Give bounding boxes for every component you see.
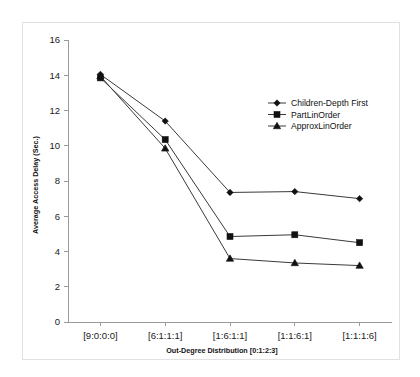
square-marker	[274, 112, 280, 118]
x-tick-label: [9:0:0:0]	[83, 330, 117, 341]
x-tick-label: [1:6:1:1]	[213, 330, 247, 341]
diamond-marker	[356, 195, 362, 201]
y-tick-label: 8	[55, 175, 60, 186]
legend-item-diamond: Children-Depth First	[268, 98, 369, 108]
legend-label: ApproxLinOrder	[291, 121, 352, 131]
legend-label: Children-Depth First	[291, 98, 369, 108]
line-chart: 0246810121416 [9:0:0:0][6:1:1:1][1:6:1:1…	[0, 0, 420, 377]
x-tick-label: [1:1:1:6]	[342, 330, 376, 341]
square-marker	[162, 137, 168, 143]
diamond-marker	[274, 100, 280, 106]
y-tick-label: 16	[49, 34, 60, 45]
y-tick-label: 10	[49, 140, 60, 151]
x-axis-tick-group: [9:0:0:0][6:1:1:1][1:6:1:1][1:1:6:1][1:1…	[83, 322, 377, 341]
legend-item-square: PartLinOrder	[268, 110, 340, 120]
y-tick-label: 0	[55, 316, 60, 327]
square-marker	[227, 234, 233, 240]
legend-label: PartLinOrder	[291, 110, 340, 120]
y-tick-label: 4	[55, 246, 60, 257]
x-tick-label: [6:1:1:1]	[148, 330, 182, 341]
diamond-marker	[292, 188, 298, 194]
y-axis-tick-group: 0246810121416	[49, 34, 68, 327]
y-tick-label: 12	[49, 105, 60, 116]
legend-item-triangle: ApproxLinOrder	[268, 121, 352, 131]
y-axis-title: Average Access Delay (Sec.)	[31, 136, 40, 234]
series-line	[100, 74, 359, 198]
series-diamond	[97, 71, 363, 202]
x-axis-title: Out-Degree Distribution [0:1:2:3]	[166, 346, 277, 355]
y-tick-label: 14	[49, 70, 60, 81]
square-marker	[357, 240, 363, 246]
triangle-marker	[226, 255, 233, 261]
y-tick-label: 2	[55, 281, 60, 292]
chart-figure: 0246810121416 [9:0:0:0][6:1:1:1][1:6:1:1…	[0, 0, 420, 377]
x-tick-label: [1:1:6:1]	[278, 330, 312, 341]
square-marker	[292, 232, 298, 238]
y-tick-label: 6	[55, 211, 60, 222]
chart-legend: Children-Depth FirstPartLinOrderApproxLi…	[268, 98, 369, 131]
